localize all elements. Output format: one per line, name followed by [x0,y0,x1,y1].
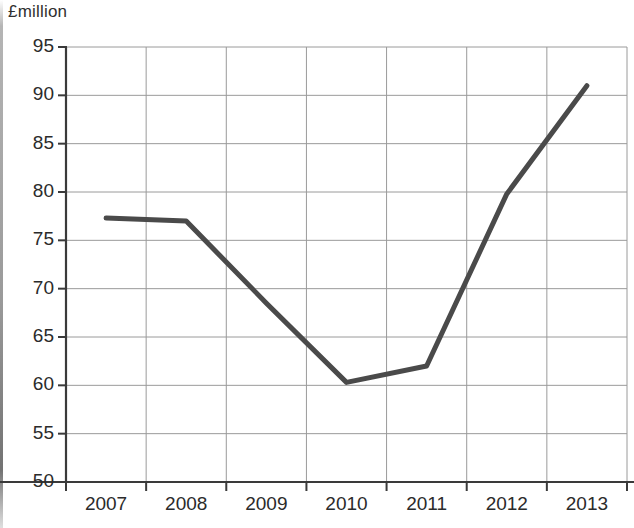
y-tick-label: 50 [14,470,54,492]
x-tick-label: 2013 [547,493,627,515]
axis-lines [0,47,634,482]
x-tick-label: 2011 [387,493,467,515]
data-series-group [106,86,587,383]
y-tick-label: 90 [14,83,54,105]
chart-page: £million 50556065707580859095 2007200820… [0,0,634,528]
data-line-series [106,86,587,383]
y-tick-label: 70 [14,277,54,299]
y-tick-label: 80 [14,180,54,202]
line-chart-plot [0,0,634,528]
y-tick-label: 75 [14,228,54,250]
y-tick-label: 65 [14,325,54,347]
y-tick-label: 55 [14,422,54,444]
y-tick-label: 85 [14,132,54,154]
x-tick-label: 2009 [226,493,306,515]
x-tick-label: 2007 [66,493,146,515]
grid-lines [66,47,627,482]
y-tick-label: 95 [14,35,54,57]
tick-marks [58,47,627,491]
y-tick-label: 60 [14,373,54,395]
x-tick-label: 2010 [307,493,387,515]
x-tick-label: 2008 [146,493,226,515]
x-tick-label: 2012 [467,493,547,515]
